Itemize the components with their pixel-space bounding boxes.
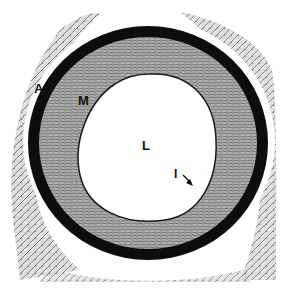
label-lumen: L — [142, 139, 150, 152]
label-media: M — [78, 94, 89, 107]
label-adventitia: A — [34, 82, 43, 95]
label-intima: I — [174, 168, 177, 181]
